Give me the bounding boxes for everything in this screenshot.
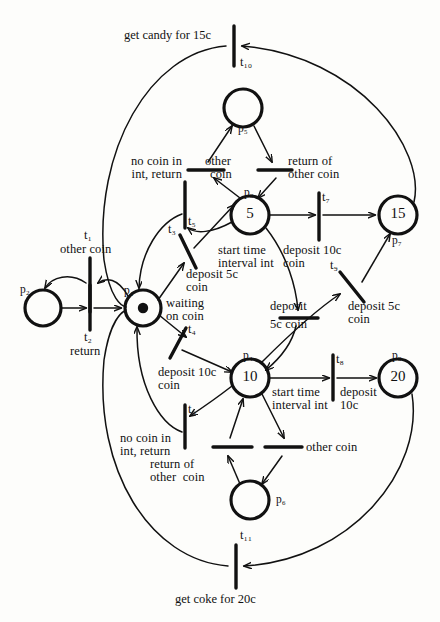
other-coin-lower: other coin (306, 441, 357, 455)
place-p6-label: p₆ (276, 493, 286, 505)
transition-t4-label: t₄ (188, 322, 196, 337)
arc-p8-t11 (244, 394, 413, 566)
transition-t3 (180, 235, 196, 268)
p4-action-line2: interval int (272, 399, 328, 413)
place-p7-label: p₇ (392, 234, 402, 246)
transition-t5-caption-line2: int, return (96, 168, 182, 182)
transition-t8-caption-line2: 10c (340, 399, 358, 413)
arc-p5-p5bar-out (254, 126, 272, 162)
place-p1-label: p₁ (124, 284, 134, 296)
mid-deposit-5c-line2: 5c coin (270, 318, 307, 332)
transition-t1-label: t₁ (84, 228, 92, 243)
place-p1-token (138, 303, 148, 313)
transition-t8-label: t₈ (336, 352, 344, 367)
transition-t7-caption-line2: coin (283, 257, 305, 271)
place-p5-label: p₅ (238, 122, 248, 134)
transition-t10-caption: get candy for 15c (124, 28, 211, 43)
transition-t3-label: t₃ (168, 222, 176, 237)
mid-deposit-5c-line1: deposit (270, 300, 307, 314)
place-p6 (231, 481, 269, 519)
transition-t2-caption: return (70, 345, 100, 359)
transition-t6-label: t₆ (188, 402, 196, 417)
place-p4-label: p₄ (243, 349, 253, 361)
transition-t2-label: t₂ (84, 330, 92, 345)
arc-t9-p7 (362, 234, 390, 282)
return-other-lower-line2: other coin (150, 471, 205, 485)
petri-net-diagram: get candy for 15c t₁₀ p₅ other coin retu… (0, 0, 440, 622)
transition-t3-caption-line2: coin (186, 281, 208, 295)
p3-action-line2: interval int (218, 257, 274, 271)
transition-t11-label: t₁₁ (240, 528, 252, 543)
transition-t9 (340, 272, 364, 302)
place-p2 (25, 290, 61, 326)
transition-t7-label: t₇ (322, 190, 330, 205)
arc-t3-p3 (194, 205, 234, 248)
p1-state-line2: on coin (166, 310, 204, 324)
arc-p6bar-out-p6 (262, 456, 282, 484)
arc-p5bar-out-p3 (258, 178, 276, 198)
other-coin-upper-line2: coin (210, 168, 232, 182)
arc-p6-p6bar-in (228, 456, 240, 484)
transition-t5-label: t₅ (188, 214, 196, 229)
transition-t9-caption-line2: coin (348, 313, 370, 327)
place-p8-value: 20 (383, 368, 413, 385)
place-p8-label: p₈ (392, 349, 402, 361)
arc-p4-t6 (190, 386, 232, 416)
place-p4-value: 10 (235, 368, 265, 385)
place-p2-label: p₂ (20, 283, 30, 295)
return-other-upper-line2: other coin (288, 168, 339, 182)
place-p3-value: 5 (235, 205, 265, 222)
transition-t1-caption: other coin (60, 243, 111, 257)
transition-t4-caption-line2: coin (158, 379, 180, 393)
transition-t9-label: t₉ (330, 258, 338, 273)
transition-t10-label: t₁₀ (240, 55, 252, 70)
arc-t1-p2 (45, 277, 86, 288)
arc-p6bar-in-p4 (230, 399, 243, 438)
place-p3-label: p₃ (244, 186, 254, 198)
transition-t11-caption: get coke for 20c (175, 592, 256, 607)
place-p7-value: 15 (383, 205, 413, 222)
transition-t4 (170, 328, 186, 358)
arc-p1-t3 (158, 263, 184, 300)
